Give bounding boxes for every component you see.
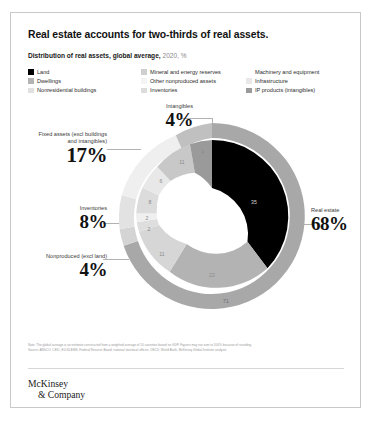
legend-swatch-icon [246,69,252,75]
callout-value: 8% [27,212,107,232]
legend-label: Inventories [150,87,177,93]
legend-swatch-icon [28,78,34,84]
inner-seg-label-nonres-buildings: 11 [159,251,164,257]
legend-item-land: Land [28,69,141,75]
page-title: Real estate accounts for two-thirds of r… [28,29,338,40]
divider [28,368,344,369]
callout-inventories: Inventories 8% [27,205,107,232]
inner-seg-label-infrastructure: 11 [179,159,184,165]
legend-swatch-icon [141,88,147,94]
legend-swatch-icon [141,78,147,84]
chart-legend: Land Dwellings Nonresidential buildings … [28,69,344,93]
chart-subtitle: Distribution of real assets, global aver… [28,52,338,59]
legend-item-mineral-energy-reserves: Mineral and energy reserves [141,69,246,75]
subtitle-light: 2020, % [163,52,187,59]
callout-intangibles: Intangibles 4% [131,103,193,130]
legend-label: Nonresidential buildings [37,87,96,93]
donut-chart: 71 [119,123,305,309]
legend-swatch-icon [246,88,252,94]
legend-label: Mineral and energy reserves [150,69,221,75]
callout-value: 68% [311,214,365,234]
footnotes: Note: The global average is an estimate … [28,343,344,352]
callout-value: 4% [131,110,193,130]
callout-value: 17% [37,144,107,166]
legend-swatch-icon [246,78,252,84]
callout-real-estate: Real estate 68% [311,207,365,234]
legend-label: IP products (intangibles) [255,87,315,93]
logo-line-1: McKinsey [28,379,85,390]
legend-item-inventories: Inventories [141,87,246,93]
inner-seg-label-other-nonproduced: 2 [146,215,149,221]
outer-seg-inventories [119,195,136,229]
legend-label: Other nonproduced assets [150,78,216,84]
legend-label: Infrastructure [255,78,288,84]
legend-label: Machinery and equipment [255,69,319,75]
legend-column-2: Mineral and energy reserves Other nonpro… [141,69,246,93]
inner-seg-label-inventories: 8 [149,199,152,205]
logo-line-2: & Company [28,390,85,401]
legend-item-nonresidential-buildings: Nonresidential buildings [28,87,141,93]
legend-swatch-icon [141,69,147,75]
legend-item-infrastructure: Infrastructure [246,78,344,84]
callout-value: 4% [16,260,107,280]
legend-item-other-nonproduced-assets: Other nonproduced assets [141,78,246,84]
chart-area: 71 [11,101,362,351]
legend-item-dwellings: Dwellings [28,78,141,84]
inner-seg-label-machinery: 6 [160,178,163,184]
outer-seg-label-real-estate: 71 [223,298,229,304]
donut-svg: 71 [119,123,305,309]
legend-label: Dwellings [37,78,61,84]
callout-fixed-assets: Fixed assets (excl buildings and intangi… [37,131,107,166]
legend-column-1: Land Dwellings Nonresidential buildings [28,69,141,93]
legend-column-3: Machinery and equipment Infrastructure I… [246,69,344,93]
exhibit-card: Real estate accounts for two-thirds of r… [10,12,361,408]
inner-seg-label-land: 35 [251,199,257,205]
inner-seg-label-mineral-energy: 2 [148,226,151,232]
inner-seg-label-ip-products: 4 [202,149,205,155]
legend-swatch-icon [28,88,34,94]
legend-label: Land [37,69,49,75]
mckinsey-logo: McKinsey & Company [28,379,85,400]
subtitle-bold: Distribution of real assets, global aver… [28,52,161,59]
legend-item-ip-products: IP products (intangibles) [246,87,344,93]
inner-seg-label-dwellings: 22 [209,272,215,278]
callout-nonproduced: Nonproduced (excl land) 4% [16,253,107,280]
legend-item-machinery-and-equipment: Machinery and equipment [246,69,344,75]
legend-swatch-icon [28,69,34,75]
footnote-source: Source: ANSCO; CEIC; EU-KLEMS; Federal R… [28,348,344,353]
